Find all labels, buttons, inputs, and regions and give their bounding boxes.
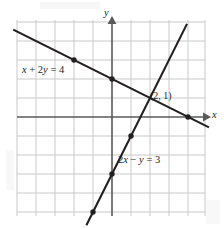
x-axis-label: x [212, 110, 217, 121]
grid-lines [17, 20, 205, 216]
equation-label-line-2: 2x − y = 3 [118, 155, 160, 166]
y-axis-label: y [104, 8, 109, 19]
point-marker [90, 209, 95, 214]
point-marker [71, 57, 76, 62]
coordinate-plane [0, 0, 224, 229]
x-axis-arrowhead [203, 113, 211, 122]
point-marker [109, 76, 114, 81]
point-marker [128, 133, 133, 138]
line-2x-minus-y-equals-3 [86, 24, 187, 225]
graph-figure: x + 2y = 4 2x − y = 3 (2, 1) y x [0, 0, 224, 229]
point-marker [109, 171, 114, 176]
intersection-point-label: (2, 1) [150, 91, 172, 101]
point-marker [185, 114, 190, 119]
equation-label-line-1: x + 2y = 4 [22, 65, 64, 76]
y-axis [108, 16, 117, 216]
